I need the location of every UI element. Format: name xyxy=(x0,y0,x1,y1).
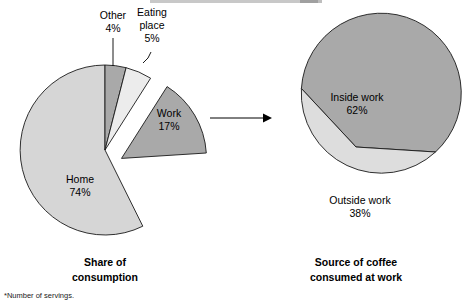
label-eating-place-name2: place xyxy=(139,19,164,31)
pie-chart-figure: Home 74% Work 17% Other 4% Eating place … xyxy=(0,0,462,308)
left-chart-caption-line1: Share of xyxy=(84,256,127,268)
label-other-name: Other xyxy=(100,9,127,21)
label-work-value: 17% xyxy=(158,120,179,132)
label-eating-place-value: 5% xyxy=(144,32,159,44)
label-outside-work-value: 38% xyxy=(349,207,370,219)
right-chart-caption-line2: consumed at work xyxy=(310,271,402,283)
label-inside-work-value: 62% xyxy=(346,104,367,116)
label-inside-work-name: Inside work xyxy=(330,91,384,103)
left-chart-caption-line2: consumption xyxy=(72,271,138,283)
right-chart-caption-line1: Source of coffee xyxy=(315,256,397,268)
label-home-value: 74% xyxy=(69,186,90,198)
label-work-name: Work xyxy=(157,107,182,119)
label-eating-place-name: Eating xyxy=(137,6,167,18)
figure-footnote: *Number of servings. xyxy=(4,291,74,300)
label-home-name: Home xyxy=(66,173,94,185)
label-other-value: 4% xyxy=(105,22,120,34)
label-outside-work-name: Outside work xyxy=(329,194,391,206)
clipped-title xyxy=(150,0,322,3)
